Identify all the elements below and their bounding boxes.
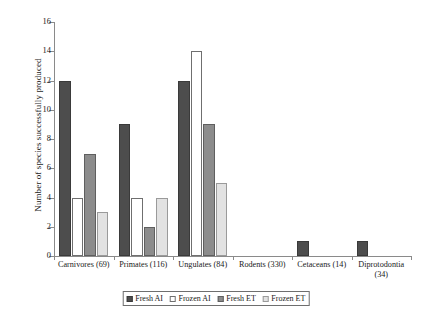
bar-group — [59, 22, 108, 256]
bar — [297, 241, 309, 256]
bar-group — [119, 22, 168, 256]
bar — [144, 227, 156, 256]
bar-group — [178, 22, 227, 256]
legend-label: Fresh ET — [226, 293, 256, 304]
y-tick-label: 16 — [43, 16, 52, 27]
bar — [72, 198, 84, 257]
y-tick-label: 8 — [47, 133, 51, 144]
y-axis-line — [54, 22, 55, 256]
legend-label: Frozen ET — [271, 293, 305, 304]
chart-legend: Fresh AIFrozen AIFresh ETFrozen ET — [123, 291, 310, 306]
y-tick-label: 2 — [47, 221, 51, 232]
legend-item[interactable]: Frozen ET — [263, 293, 306, 304]
legend-label: Fresh AI — [135, 293, 163, 304]
bar — [59, 81, 71, 257]
bar — [216, 183, 228, 256]
bar-chart-figure: Number of species successfully produced … — [0, 0, 432, 324]
bar-group — [297, 22, 346, 256]
legend-swatch-icon — [127, 296, 133, 302]
legend-item[interactable]: Fresh AI — [127, 293, 163, 304]
legend-swatch-icon — [263, 296, 269, 302]
bar — [131, 198, 143, 257]
bar — [178, 81, 190, 257]
legend-swatch-icon — [218, 296, 224, 302]
bar — [84, 154, 96, 256]
x-axis-category-label: Diprotodontia (34) — [338, 260, 424, 280]
legend-item[interactable]: Frozen AI — [170, 293, 211, 304]
y-tick-label: 12 — [43, 75, 52, 86]
legend-item[interactable]: Fresh ET — [218, 293, 256, 304]
bar — [203, 124, 215, 256]
y-tick-label: 6 — [47, 162, 51, 173]
y-tick-label: 10 — [43, 104, 52, 115]
bar — [357, 241, 369, 256]
bar — [156, 198, 168, 257]
y-tick-label: 14 — [43, 45, 52, 56]
bar-group — [357, 22, 406, 256]
y-axis-title: Number of species successfully produced — [33, 25, 43, 245]
bar — [119, 124, 131, 256]
bar — [97, 212, 109, 256]
legend-label: Frozen AI — [179, 293, 211, 304]
legend-swatch-icon — [170, 296, 176, 302]
bar — [191, 51, 203, 256]
y-tick-label: 4 — [47, 192, 51, 203]
bar-group — [238, 22, 287, 256]
plot-area: 0246810121416 Carnivores (69)Primates (1… — [54, 22, 411, 256]
